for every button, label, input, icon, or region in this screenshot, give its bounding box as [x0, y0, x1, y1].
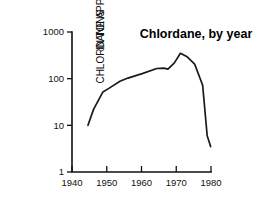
y-tick-label: 100: [48, 73, 64, 84]
x-tick-label: 1960: [131, 177, 152, 188]
chart-title: Chlordane, by year: [140, 27, 253, 41]
y-tick-label: 10: [53, 120, 64, 131]
y-tick-label: 1: [59, 166, 64, 177]
x-tick-label: 1970: [166, 177, 187, 188]
x-tick-label: 1950: [96, 177, 117, 188]
y-tick-label: 1000: [43, 26, 64, 37]
chlordane-line-chart: 1101001000 19401950196019701980 Chlordan…: [0, 0, 273, 202]
x-tick-label: 1940: [61, 177, 82, 188]
y-axis-label-line-2: IN TONS: [95, 10, 106, 51]
y-axis-label: CHLORDANE APPLICATION, IN TONS: [95, 0, 106, 84]
x-tick-label: 1980: [200, 177, 221, 188]
chart-figure: 1101001000 19401950196019701980 Chlordan…: [0, 0, 273, 202]
